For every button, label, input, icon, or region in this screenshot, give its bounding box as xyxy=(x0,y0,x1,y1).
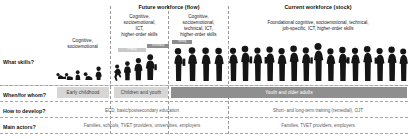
silhouette-group-children-youth xyxy=(113,51,165,85)
row-label-when-for-whom: When/for whom? xyxy=(3,92,46,98)
current-workforce-subtitle-line2: job-specific, ICT, higher-order skills xyxy=(228,26,408,32)
row-label-how-to-develop: How to develop? xyxy=(3,108,45,114)
silhouette-row xyxy=(0,40,408,85)
skills-column-youth: Cognitive, socioemotional, technical, IC… xyxy=(170,14,227,38)
band-early-childhood-label: Early childhood xyxy=(67,90,100,95)
future-workforce-header: Future workforce (flow) xyxy=(110,4,228,11)
row-label-what-skills: What skills? xyxy=(3,59,34,65)
skills-col2-line4: higher-order skills xyxy=(112,32,167,38)
youth-figures-icon xyxy=(170,45,226,81)
band-youth-and-older-adults: Youth and older adults xyxy=(171,87,407,98)
silhouette-group-adults xyxy=(228,41,408,85)
row-divider-bottom xyxy=(0,133,408,134)
early-childhood-figures-icon xyxy=(56,59,108,81)
how-to-develop-right-value: Short- and long-term training (remedial)… xyxy=(229,108,407,114)
row-divider-3 xyxy=(0,117,408,118)
silhouette-group-early-childhood xyxy=(56,59,108,85)
skills-col3-line4: higher-order skills xyxy=(170,32,227,38)
band-children-and-youth: Children and youth xyxy=(114,87,168,98)
row-label-main-actors: Main actors? xyxy=(3,124,36,130)
row-divider-2 xyxy=(0,101,408,102)
band-early-childhood: Early childhood xyxy=(57,87,109,98)
band-children-and-youth-label: Children and youth xyxy=(121,90,161,95)
band-youth-and-older-adults-label: Youth and older adults xyxy=(265,90,313,95)
row-divider-1 xyxy=(0,85,408,86)
skills-column-children: Cognitive, socioemotional, ICT, higher-o… xyxy=(112,14,167,38)
how-to-develop-left-value: ECD, basic/postsecondary education xyxy=(57,108,227,114)
main-actors-right-value: Families, TVET providers, employers xyxy=(229,123,407,129)
children-youth-figures-icon xyxy=(113,51,165,81)
skills-lifecycle-diagram: Future workforce (flow) Current workforc… xyxy=(0,0,408,138)
adult-crowd-figures-icon xyxy=(228,41,408,81)
silhouette-group-youth xyxy=(170,45,226,85)
current-workforce-header: Current workforce (stock) xyxy=(228,4,408,11)
main-actors-left-value: Families, schools, TVET providers, unive… xyxy=(57,123,227,129)
